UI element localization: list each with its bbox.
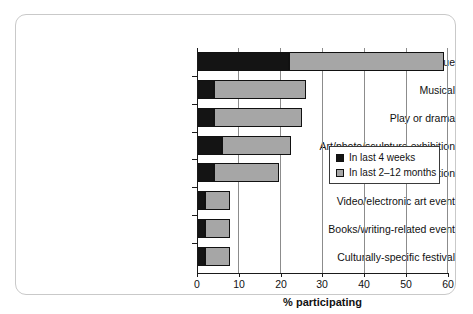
y-axis-tick	[192, 159, 197, 160]
figure-card: Film at cinema/other venue Musical Play …	[15, 14, 456, 295]
bar-segment-recent	[197, 191, 205, 210]
x-tick-label-20: 20	[275, 278, 287, 290]
x-axis-tick	[364, 273, 365, 277]
gridline-60	[447, 48, 448, 273]
x-axis-title: % participating	[197, 296, 448, 308]
x-tick-label-40: 40	[358, 278, 370, 290]
bar-segment-year	[222, 136, 291, 155]
x-axis-tick	[281, 273, 282, 277]
black-square-swatch-icon	[336, 154, 344, 162]
y-axis-tick	[192, 187, 197, 188]
x-tick-label-60: 60	[442, 278, 454, 290]
y-axis-tick	[192, 104, 197, 105]
y-axis-tick	[192, 76, 197, 77]
bar-segment-year	[289, 52, 444, 71]
bar-segment-recent	[197, 163, 214, 182]
bar-segment-recent	[197, 219, 205, 238]
y-axis-tick	[192, 132, 197, 133]
legend-label-year: In last 2–12 months	[349, 168, 436, 178]
x-tick-label-0: 0	[194, 278, 200, 290]
bar-segment-recent	[197, 247, 205, 266]
gridline-30	[322, 48, 323, 273]
x-tick-label-50: 50	[400, 278, 412, 290]
legend-label-recent: In last 4 weeks	[349, 153, 415, 163]
legend-item-recent: In last 4 weeks	[336, 150, 439, 165]
y-axis-tick	[192, 215, 197, 216]
legend-item-year: In last 2–12 months	[336, 165, 439, 180]
bar-segment-year	[205, 247, 230, 266]
x-axis-tick	[406, 273, 407, 277]
bar-segment-year	[214, 163, 279, 182]
bar-segment-year	[205, 191, 230, 210]
bar-segment-year	[214, 80, 306, 99]
chart-legend: In last 4 weeks In last 2–12 months	[329, 146, 440, 184]
bar-segment-recent	[197, 108, 214, 127]
bar-segment-year	[205, 219, 230, 238]
bar-segment-year	[214, 108, 302, 127]
gray-square-swatch-icon	[336, 169, 344, 177]
x-tick-label-10: 10	[233, 278, 245, 290]
x-axis-tick	[448, 273, 449, 277]
x-tick-label-30: 30	[316, 278, 328, 290]
x-axis-tick	[239, 273, 240, 277]
y-axis-tick	[192, 243, 197, 244]
bar-segment-recent	[197, 136, 222, 155]
x-axis-line	[197, 273, 449, 274]
bar-segment-recent	[197, 80, 214, 99]
x-axis-tick	[322, 273, 323, 277]
bar-segment-recent	[197, 52, 289, 71]
y-axis-line	[197, 48, 198, 274]
x-axis-tick	[197, 273, 198, 277]
